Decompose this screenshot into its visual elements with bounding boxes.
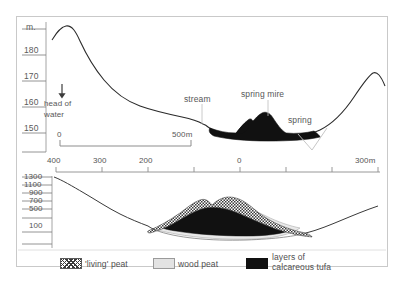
down-arrow-icon (58, 84, 65, 98)
upper-y-axis-unit: m. (26, 22, 36, 32)
distance-tick-300m: 300m (355, 156, 375, 165)
distance-tick-200: 200 (139, 156, 153, 165)
head-of-water-label-line2: water (44, 110, 64, 119)
legend-label-living-peat: 'living' peat (85, 259, 128, 269)
upper-y-tick-180: 180 (24, 45, 38, 55)
distance-axis (56, 167, 380, 172)
upper-y-tick-170: 170 (24, 71, 38, 81)
spring-mire-cross-section-figure: m. 180 170 160 150 head of water 0 500m … (0, 0, 406, 283)
legend-label-tufa-line2: calcareous tufa (272, 263, 331, 273)
lower-terrain-profile (54, 177, 155, 230)
legend-label-wood-peat: wood peat (178, 259, 218, 269)
legend-swatch-living-peat (60, 258, 82, 269)
upper-y-tick-160: 160 (24, 97, 38, 107)
legend-swatch-wood-peat (153, 258, 175, 269)
distance-tick-0: 0 (237, 156, 242, 165)
distance-tick-400: 400 (47, 156, 61, 165)
lower-terrain-profile-right (306, 206, 378, 233)
head-of-water-label-line1: head of (44, 99, 71, 108)
distance-axis-ticks (56, 167, 378, 172)
upper-y-tick-150: 150 (24, 123, 38, 133)
lower-panel (22, 176, 378, 248)
distance-tick-300: 300 (93, 156, 107, 165)
scale-bar-end-label: 500m (172, 130, 192, 139)
diagram-vector-layer (0, 0, 406, 283)
spring-mire-label: spring mire (241, 89, 284, 99)
scale-bar-start-label: 0 (57, 130, 62, 139)
lower-y-tick-100: 100 (29, 221, 43, 230)
scale-bar (60, 140, 191, 146)
upper-terrain-profile (52, 26, 208, 127)
legend-swatch-calcareous-tufa (246, 258, 268, 269)
upper-panel (22, 22, 385, 152)
upper-right-slope (320, 73, 385, 130)
stream-label: stream (184, 94, 211, 104)
lower-y-tick-500: 500 (29, 204, 43, 213)
spring-label: spring (288, 115, 312, 125)
